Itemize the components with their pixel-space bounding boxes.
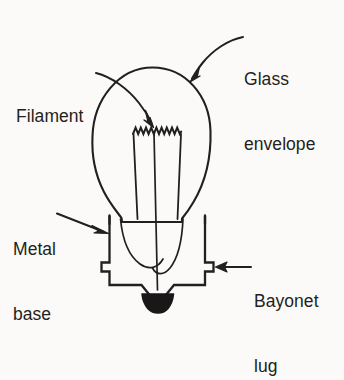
- label-bayonet-lug-line1: Bayonet: [254, 291, 319, 313]
- label-glass-envelope: Glass envelope: [244, 26, 315, 198]
- label-glass-envelope-line1: Glass: [244, 69, 315, 91]
- label-metal-base-line1: Metal: [13, 239, 56, 261]
- label-metal-base: Metal base: [13, 196, 56, 368]
- label-glass-envelope-line2: envelope: [244, 134, 315, 156]
- label-bayonet-lug-line2: lug: [254, 356, 319, 378]
- label-bayonet-lug: Bayonet lug: [254, 248, 319, 380]
- label-metal-base-line2: base: [13, 304, 56, 326]
- label-filament-line1: Filament: [16, 106, 84, 128]
- label-filament: Filament: [16, 63, 84, 171]
